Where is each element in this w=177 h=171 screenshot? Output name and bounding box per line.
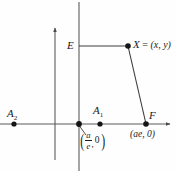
label-ae-text: (ae, 0) bbox=[130, 129, 155, 139]
fraction-numerator: a bbox=[85, 131, 91, 140]
label-vertex-a1: A1 bbox=[93, 105, 103, 119]
label-a2-letter: A bbox=[7, 107, 14, 119]
label-focus-coords: (ae, 0) bbox=[130, 130, 155, 140]
label-x-name: X bbox=[133, 38, 140, 50]
label-f-text: F bbox=[149, 109, 156, 121]
label-vertex-a2: A2 bbox=[7, 108, 17, 122]
label-a2-subscript: 2 bbox=[14, 114, 18, 122]
point-f bbox=[143, 121, 149, 127]
point-directrix-foot bbox=[76, 121, 82, 127]
point-a1 bbox=[97, 121, 102, 126]
paren-close-icon: ) bbox=[101, 133, 105, 149]
label-a1-subscript: 1 bbox=[100, 111, 104, 119]
fraction-zero: 0 bbox=[94, 136, 100, 146]
label-focus-f: F bbox=[149, 110, 156, 121]
label-directrix-coords: ( a e , 0 ) bbox=[79, 131, 106, 150]
label-a1-letter: A bbox=[93, 104, 100, 116]
label-x-coords: (x, y) bbox=[150, 39, 171, 50]
label-point-x: X = (x, y) bbox=[133, 39, 171, 50]
segment-x-to-f bbox=[128, 46, 146, 124]
fraction-denominator: e bbox=[86, 142, 92, 151]
label-e-text: E bbox=[67, 39, 74, 51]
label-point-e: E bbox=[67, 40, 74, 51]
conic-figure: E X = (x, y) A2 A1 F (ae, 0) ( a e , 0 ) bbox=[0, 0, 177, 171]
point-x bbox=[125, 43, 131, 49]
paren-open-icon: ( bbox=[80, 133, 84, 149]
